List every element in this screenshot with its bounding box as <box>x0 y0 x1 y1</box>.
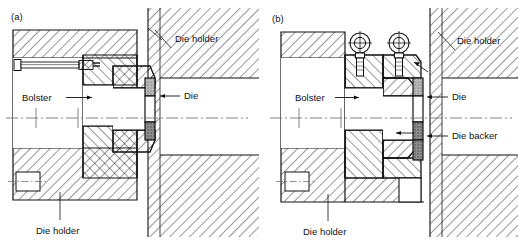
panel-b-label-die-backer: Die backer <box>452 130 497 141</box>
panel-a-tag: (a) <box>11 11 23 22</box>
figure-canvas: (a) <box>0 0 518 245</box>
panel-a-label-die-holder-bottom: Die holder <box>36 225 79 236</box>
panel-b-lower-pocket <box>399 178 421 202</box>
panel-b-label-die-holder-top: Die holder <box>457 35 500 46</box>
panel-a-label-die-holder-top: Die holder <box>175 33 218 44</box>
panel-a-label-die: Die <box>184 90 198 101</box>
extrusion-die-assembly-figure: (a) <box>0 0 518 245</box>
panel-b-label-bolster: Bolster <box>295 92 325 103</box>
panel-a-label-bolster: Bolster <box>22 92 52 103</box>
panel-b-label-die-holder-bottom: Die holder <box>303 226 346 237</box>
panel-b-bolster-bore <box>281 58 345 148</box>
panel-b-die <box>413 78 423 160</box>
panel-b-label-die: Die <box>452 91 466 102</box>
panel-b-tag: (b) <box>272 13 284 24</box>
panel-a-die <box>145 78 155 140</box>
panel-a-bolster-bore <box>13 58 83 148</box>
